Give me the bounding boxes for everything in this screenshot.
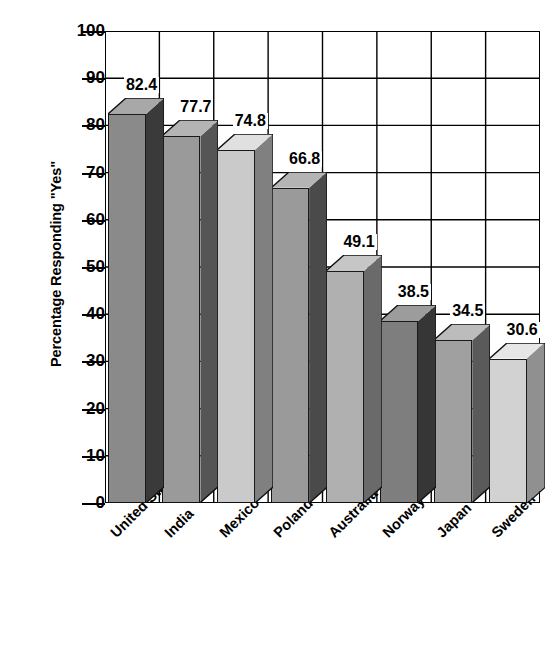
x-axis-category-labels: United StatesIndiaMexicoPolandAustraliaN… (0, 503, 560, 661)
bar-value-label: 38.5 (396, 284, 431, 300)
bar-outline (326, 255, 382, 503)
bar-india (162, 120, 218, 503)
bar-united-states (108, 98, 164, 503)
y-tick-mark (82, 220, 105, 222)
bar-japan (434, 324, 490, 503)
bar-outline (108, 98, 164, 503)
y-tick-mark (82, 31, 105, 33)
bar-australia (326, 255, 382, 503)
x-category-label-india: India (162, 505, 197, 540)
bar-outline (162, 120, 218, 503)
bar-outline (489, 343, 545, 503)
y-tick-mark (82, 78, 105, 80)
y-tick-mark (82, 125, 105, 127)
bar-outline (271, 172, 327, 503)
y-tick-mark (82, 314, 105, 316)
plot-area: 30.634.538.549.166.874.877.782.4 (105, 31, 540, 503)
y-tick-mark (82, 456, 105, 458)
bar-value-label: 34.5 (450, 303, 485, 319)
bar-value-label: 66.8 (287, 151, 322, 167)
bar-value-label: 82.4 (124, 77, 159, 93)
x-category-label-japan: Japan (434, 500, 475, 541)
bar-chart: Percentage Responding "Yes" 100908070605… (0, 0, 560, 661)
bar-value-label: 74.8 (233, 113, 268, 129)
bar-norway (380, 305, 436, 503)
y-tick-mark (82, 267, 105, 269)
bar-value-label: 30.6 (505, 322, 540, 338)
bar-outline (380, 305, 436, 503)
bar-sweden (489, 343, 545, 503)
bar-value-label: 77.7 (178, 99, 213, 115)
y-tick-mark (82, 173, 105, 175)
bars-layer: 30.634.538.549.166.874.877.782.4 (105, 31, 540, 503)
bar-poland (271, 172, 327, 503)
bar-outline (434, 324, 490, 503)
y-tick-mark (82, 361, 105, 363)
bar-mexico (217, 134, 273, 503)
bar-outline (217, 134, 273, 503)
bar-value-label: 49.1 (341, 234, 376, 250)
y-tick-mark (82, 409, 105, 411)
